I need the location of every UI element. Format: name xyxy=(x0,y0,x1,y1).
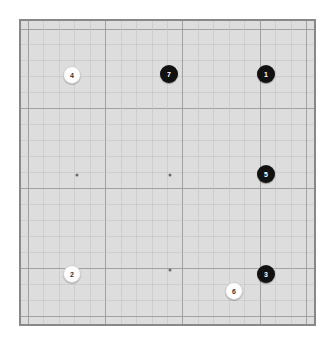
stone-6-label: 6 xyxy=(232,288,236,295)
stone-1[interactable]: 1 xyxy=(257,65,275,83)
stone-2-label: 2 xyxy=(70,271,74,278)
star-point-bottom-center xyxy=(168,269,171,272)
stone-4[interactable]: 4 xyxy=(63,66,81,84)
stone-5-label: 5 xyxy=(264,171,268,178)
stone-3-label: 3 xyxy=(264,271,268,278)
go-board-container: 1234567 xyxy=(0,0,334,345)
stone-4-label: 4 xyxy=(70,72,74,79)
stone-6[interactable]: 6 xyxy=(225,282,243,300)
stone-2[interactable]: 2 xyxy=(63,265,81,283)
go-board[interactable]: 1234567 xyxy=(19,19,316,326)
stone-7[interactable]: 7 xyxy=(160,65,178,83)
stone-1-label: 1 xyxy=(264,71,268,78)
stone-7-label: 7 xyxy=(167,71,171,78)
star-point-center xyxy=(168,173,171,176)
stone-5[interactable]: 5 xyxy=(257,165,275,183)
stone-3[interactable]: 3 xyxy=(257,265,275,283)
star-point-left-center xyxy=(75,173,78,176)
